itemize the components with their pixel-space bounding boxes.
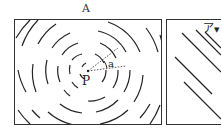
corner-label: ア▼: [203, 22, 220, 35]
right-panel-frame: [167, 20, 222, 125]
pole-point: [87, 70, 89, 72]
angle-label: a: [108, 58, 114, 69]
circular-star-trails: [16, 20, 164, 125]
angle-arc: [104, 61, 107, 68]
pole-label: P: [82, 74, 90, 88]
star-trail-diagram: P a ア▼: [0, 0, 221, 132]
diagonal-star-trails: [175, 30, 221, 119]
